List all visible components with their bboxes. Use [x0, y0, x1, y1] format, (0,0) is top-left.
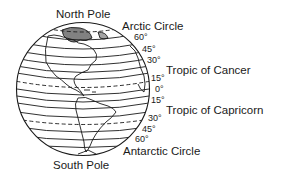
degree-label-n45: 45°	[142, 45, 156, 54]
south-pole-label: South Pole	[53, 160, 109, 172]
globe-diagram: North Pole Arctic Circle 60° 45° 30° Tro…	[0, 0, 283, 182]
degree-label-s15: 15°	[151, 96, 165, 105]
globe-outline	[17, 23, 150, 156]
continents	[45, 27, 145, 154]
arctic-circle-label: Arctic Circle	[122, 21, 183, 33]
degree-label-s45: 45°	[142, 125, 156, 134]
tropic-of-cancer-label: Tropic of Cancer	[166, 65, 251, 77]
degree-label-n60: 60°	[134, 33, 148, 42]
antarctic-circle-label: Antarctic Circle	[123, 146, 200, 158]
degree-label-n15: 15°	[151, 74, 165, 83]
degree-label-s60: 60°	[135, 135, 149, 144]
degree-label-s30: 30°	[148, 114, 162, 123]
tropic-of-capricorn-label: Tropic of Capricorn	[166, 105, 263, 117]
north-pole-label: North Pole	[56, 9, 110, 21]
degree-label-n30: 30°	[147, 56, 161, 65]
degree-label-equator: 0°	[155, 85, 164, 94]
